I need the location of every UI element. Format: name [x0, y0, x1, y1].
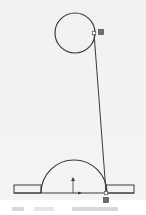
coincident-point-bottom-icon[interactable] [104, 191, 108, 195]
left-base-rectangle[interactable] [14, 185, 41, 193]
right-base-rectangle[interactable] [106, 185, 134, 193]
status-bar: (illegible status text) [0, 203, 146, 215]
sketch-circle[interactable] [55, 13, 95, 53]
constraint-badge-top-icon[interactable] [99, 30, 104, 35]
sketch-drawing[interactable] [0, 0, 146, 215]
coincident-point-top-icon[interactable] [92, 31, 96, 35]
status-item [72, 207, 118, 211]
origin-axis-icon [71, 177, 82, 195]
constraint-badge-bottom-icon[interactable] [104, 198, 109, 203]
status-item [34, 207, 54, 211]
semicircle-arc[interactable] [41, 160, 107, 193]
status-icon [12, 207, 24, 211]
